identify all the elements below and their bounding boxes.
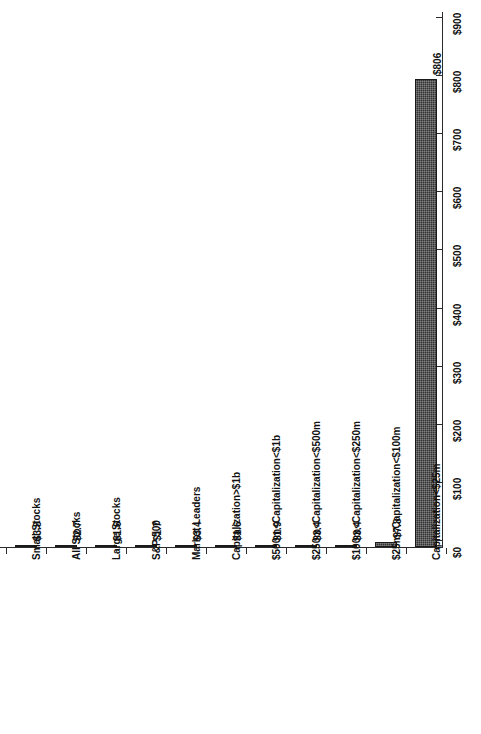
category-label: All Stocks	[71, 512, 82, 560]
category-axis-tick	[246, 548, 247, 554]
category-label: S&P 500	[151, 520, 162, 560]
category-axis-tick	[46, 548, 47, 554]
category-label: $100m<Capitalization<$250m	[351, 421, 362, 560]
category-label: $25m<Capitalization<$100m	[391, 427, 402, 560]
category-axis-tick	[406, 548, 407, 554]
category-axis-tick	[366, 548, 367, 554]
category-axis-tick	[166, 548, 167, 554]
category-axis-tick	[126, 548, 127, 554]
category-axis-tick	[86, 548, 87, 554]
category-axis-tick	[6, 548, 7, 554]
category-label: Capitalization<$25m	[431, 464, 442, 560]
category-axis-tick	[326, 548, 327, 554]
category-label: Market Leaders	[191, 487, 202, 560]
category-label: $250m<Capitalization<$500m	[311, 421, 322, 560]
value-axis-tick	[436, 75, 442, 76]
category-label: Capitalization>$1b	[231, 472, 242, 560]
category-axis-tick	[206, 548, 207, 554]
bar-value-label: $806	[432, 52, 443, 74]
value-axis-tick	[436, 17, 442, 18]
category-label: $500m<Capitalization<$1b	[271, 435, 282, 560]
category-axis-line	[0, 547, 443, 548]
category-axis-tick	[286, 548, 287, 554]
category-axis-tick	[446, 548, 447, 554]
category-label: Small Stocks	[31, 498, 42, 560]
category-label: Large Stocks	[111, 497, 122, 560]
value-axis-line	[442, 12, 443, 548]
bar-chart: $0$100$200$300$400$500$600$700$800$900 $…	[0, 0, 481, 734]
